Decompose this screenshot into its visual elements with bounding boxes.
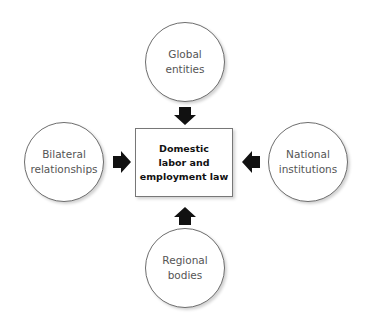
arrow-left-icon	[242, 151, 260, 173]
center-box-domestic-law: Domestic labor and employment law	[135, 128, 233, 197]
node-bilateral-relationships: Bilateral relationships	[24, 122, 104, 202]
node-global-entities: Global entities	[145, 22, 225, 102]
node-national-institutions: National institutions	[268, 122, 348, 202]
node-regional-bodies: Regional bodies	[145, 228, 225, 308]
arrow-down-icon	[174, 107, 196, 125]
node-label: National institutions	[279, 147, 337, 177]
center-label: Domestic labor and employment law	[140, 142, 229, 184]
node-label: Bilateral relationships	[30, 147, 97, 177]
node-label: Global entities	[165, 47, 204, 77]
arrow-right-icon	[113, 151, 131, 173]
arrow-up-icon	[174, 207, 196, 225]
node-label: Regional bodies	[162, 253, 207, 283]
